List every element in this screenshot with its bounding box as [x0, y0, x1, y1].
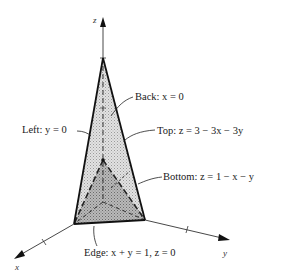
back-face-label: Back: x = 0 [135, 92, 184, 103]
y-axis [145, 220, 230, 241]
x-axis-arrow-icon [14, 250, 25, 259]
y-axis-arrow-icon [218, 234, 230, 241]
x-axis-label: x [15, 263, 19, 272]
z-axis [100, 17, 106, 58]
top-face-label: Top: z = 3 − 3x − 3y [157, 126, 243, 137]
y-axis-label: y [223, 249, 227, 258]
bottom-face-label: Bottom: z = 1 − x − y [163, 172, 254, 183]
solid-region-figure [0, 0, 283, 278]
edge-label: Edge: x + y = 1, z = 0 [84, 248, 176, 259]
z-axis-arrow-icon [100, 17, 106, 27]
x-axis [14, 224, 74, 259]
z-axis-label: z [93, 16, 97, 25]
left-face-label: Left: y = 0 [22, 125, 67, 136]
